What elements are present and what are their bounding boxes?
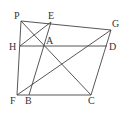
- diagram-svg: PEGHADFBC: [0, 0, 124, 115]
- segment-cg: [91, 30, 111, 95]
- point-label-d: D: [109, 41, 116, 52]
- segment-pc: [21, 21, 91, 95]
- point-label-c: C: [88, 95, 95, 106]
- point-label-h: H: [9, 41, 16, 52]
- segment-pf: [17, 21, 21, 95]
- point-label-b: B: [25, 95, 32, 106]
- geometry-diagram: PEGHADFBC: [0, 0, 124, 115]
- point-label-a: A: [46, 35, 54, 46]
- segment-pg: [21, 21, 111, 30]
- point-label-g: G: [112, 18, 119, 29]
- point-label-f: F: [10, 95, 16, 106]
- segment-fg: [17, 30, 111, 95]
- point-label-p: P: [14, 10, 20, 21]
- point-label-e: E: [48, 10, 54, 21]
- segments-group: [17, 21, 111, 95]
